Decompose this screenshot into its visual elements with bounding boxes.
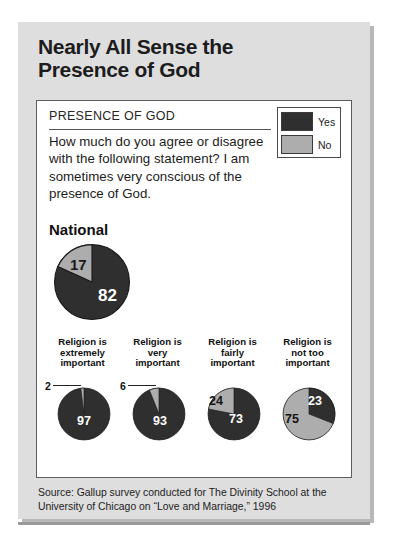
legend-swatch-no (281, 135, 313, 154)
page-title: Nearly All Sense the Presence of God (38, 36, 338, 81)
infographic-card: Nearly All Sense the Presence of God PRE… (18, 22, 370, 519)
pie-cell-fairly-important: 73 24 (195, 379, 270, 441)
legend-label-no: No (318, 139, 331, 151)
pie-cell-extremely-important: 97 2 (45, 379, 120, 441)
value-no: 24 (209, 395, 223, 408)
national-value-no: 17 (70, 257, 87, 272)
question-text: How much do you agree or disagree with t… (49, 133, 289, 202)
category-labels-row: Religion is extremely important Religion… (45, 337, 345, 369)
category-label-very-important: Religion is very important (120, 337, 195, 369)
pie-cell-not-too-important: 23 75 (270, 379, 345, 441)
national-value-yes: 82 (98, 287, 117, 304)
chart-panel: PRESENCE OF GOD How much do you agree or… (36, 100, 352, 478)
page-title-line2: Presence of God (38, 59, 338, 82)
category-label-not-too-important: Religion is not too important (270, 337, 345, 369)
source-note: Source: Gallup survey conducted for The … (38, 486, 344, 513)
legend-swatch-yes (281, 112, 313, 131)
value-yes: 97 (77, 415, 91, 428)
pie-charts-row: 97 2 93 6 73 24 (45, 379, 345, 441)
pie-cell-very-important: 93 6 (120, 379, 195, 441)
value-no: 6 (120, 381, 126, 392)
category-line3: important (120, 358, 195, 369)
header-rule (49, 129, 271, 130)
leader-line (53, 385, 81, 386)
value-no: 75 (285, 413, 299, 426)
legend-label-yes: Yes (318, 116, 335, 128)
legend-item-yes: Yes (281, 111, 337, 132)
question-header: PRESENCE OF GOD (49, 109, 175, 123)
category-line3: important (270, 358, 345, 369)
value-no: 2 (45, 381, 51, 392)
value-yes: 73 (229, 413, 243, 426)
bottom-rule (18, 522, 370, 525)
category-line3: important (195, 358, 270, 369)
category-label-extremely-important: Religion is extremely important (45, 337, 120, 369)
legend-item-no: No (281, 134, 337, 155)
category-label-fairly-important: Religion is fairly important (195, 337, 270, 369)
value-yes: 93 (153, 415, 167, 428)
page-title-line1: Nearly All Sense the (38, 36, 338, 59)
national-label: National (49, 221, 108, 238)
leader-line (128, 385, 156, 386)
national-pie-chart (53, 243, 131, 321)
category-line3: important (45, 358, 120, 369)
legend: Yes No (277, 107, 341, 158)
value-yes: 23 (308, 395, 322, 408)
